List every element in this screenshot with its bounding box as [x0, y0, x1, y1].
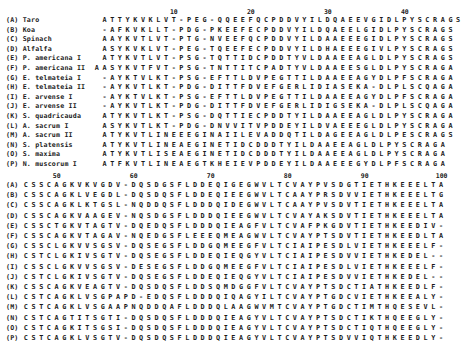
ruler-tick: 50: [53, 172, 61, 180]
alignment-row: (P) N. muscorum I ATFKVTLINEAEGTKHEIEVPD…: [0, 159, 455, 170]
sequence-label: (P): [6, 333, 19, 342]
ruler-tick: 70: [207, 172, 215, 180]
ruler-tick: 80: [284, 172, 292, 180]
sequence-label: (P) N. muscorum I: [6, 159, 77, 170]
bottom-alignment-block: 5060708090100 (A)CSSCAGKVKVGDV-DQSDGSFLD…: [0, 172, 455, 342]
sequence-residues: CSTCAGKLVSGTV-DQSDQSFLDDDQIEAGYVLTCVAYPT…: [22, 333, 445, 342]
ruler-tick: 100: [436, 172, 448, 180]
top-alignment-block: 10203040 (A) Taro ATTYKVKLVT-PEG-QQEEFQC…: [0, 0, 455, 170]
sequence-residues: ATFKVTLINEAEGTKHEIEVPDDEYILDAAEEEGYDLPFS…: [93, 159, 447, 170]
ruler-tick: 60: [130, 172, 138, 180]
ruler-tick: 90: [361, 172, 369, 180]
alignment-row: (P)CSTCAGKLVSGTV-DQSDQSFLDDDQIEAGYVLTCVA…: [0, 333, 455, 342]
